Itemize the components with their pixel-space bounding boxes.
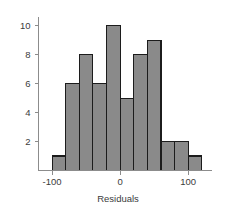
y-tick-label: 4 <box>25 107 30 118</box>
x-tick-label: 0 <box>118 176 123 187</box>
histogram-bar <box>107 26 121 171</box>
y-tick-label: 10 <box>20 20 31 31</box>
histogram-bar <box>188 156 202 170</box>
y-tick-label: 8 <box>25 49 30 60</box>
histogram-bar <box>161 142 175 171</box>
histogram-bar <box>93 84 107 171</box>
x-tick-label: -100 <box>43 176 62 187</box>
x-tick-label: 100 <box>180 176 196 187</box>
histogram-bar <box>52 156 66 170</box>
y-tick-label: 6 <box>25 78 30 89</box>
y-tick-label: 2 <box>25 136 30 147</box>
histogram-bar <box>147 40 161 170</box>
histogram-bar <box>66 84 80 171</box>
chart-canvas: 246810 -1000100 Residuals <box>0 0 233 219</box>
histogram-bar <box>79 55 93 171</box>
bars-group <box>52 26 202 171</box>
histogram-bar <box>120 98 134 170</box>
y-tick-marks <box>35 26 39 142</box>
histogram-figure: 246810 -1000100 Residuals <box>0 0 233 219</box>
x-tick-labels: -1000100 <box>43 176 197 187</box>
histogram-bar <box>175 142 189 171</box>
x-tick-marks <box>52 171 188 175</box>
x-axis <box>39 171 213 175</box>
histogram-bar <box>134 55 148 171</box>
y-axis <box>35 17 39 171</box>
y-tick-labels: 246810 <box>20 20 31 147</box>
x-axis-title: Residuals <box>97 193 139 204</box>
